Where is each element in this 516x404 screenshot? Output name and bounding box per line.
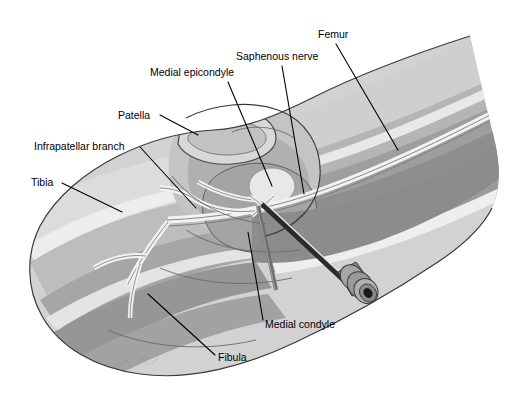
- label-saphenous-nerve: Saphenous nerve: [236, 50, 318, 62]
- label-tibia: Tibia: [31, 176, 54, 188]
- label-medial-condyle: Medial condyle: [265, 318, 335, 330]
- patella-shape: [178, 110, 276, 165]
- label-fibula: Fibula: [218, 351, 247, 363]
- leader-patella: [160, 115, 198, 135]
- anatomical-illustration: Femur Saphenous nerve Medial epicondyle …: [0, 0, 516, 404]
- label-medial-epicondyle: Medial epicondyle: [150, 66, 234, 78]
- illustration-canvas: Femur Saphenous nerve Medial epicondyle …: [0, 0, 516, 404]
- label-patella: Patella: [118, 109, 150, 121]
- label-infrapatellar-branch: Infrapatellar branch: [34, 140, 125, 152]
- label-femur: Femur: [318, 28, 349, 40]
